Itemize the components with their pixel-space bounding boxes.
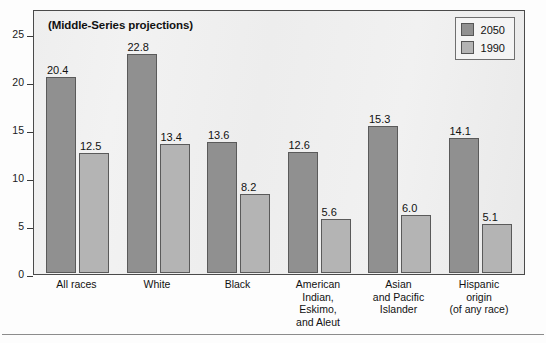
bar-value-1990-3: 8.2 xyxy=(241,181,256,193)
bar-2050-3 xyxy=(207,142,237,273)
bar-value-2050-2: 22.8 xyxy=(128,41,149,53)
y-axis: 0510152025 xyxy=(0,10,33,275)
x-axis-label-line: Hispanic xyxy=(431,278,527,291)
x-axis-labels: All racesWhiteBlackAmericanIndian,Eskimo… xyxy=(33,278,525,340)
bar-value-2050-6: 14.1 xyxy=(450,125,471,137)
y-tick-mark-5 xyxy=(27,228,33,229)
plot-area: (Middle-Series projections) 2050 1990 20… xyxy=(33,10,525,275)
y-tick-mark-15 xyxy=(27,132,33,133)
y-tick-mark-10 xyxy=(27,180,33,181)
bar-1990-2 xyxy=(160,144,190,273)
bar-2050-2 xyxy=(127,54,157,273)
bar-1990-5 xyxy=(401,215,431,273)
x-axis-label-line: and Aleut xyxy=(270,316,366,329)
bottom-divider xyxy=(2,334,544,335)
y-tick-label-10: 10 xyxy=(12,172,24,184)
bar-value-1990-2: 13.4 xyxy=(161,131,182,143)
bar-2050-1 xyxy=(46,77,76,273)
x-axis-label-line: origin xyxy=(431,291,527,304)
bar-value-1990-4: 5.6 xyxy=(322,206,337,218)
bar-2050-4 xyxy=(288,152,318,273)
bar-value-1990-6: 5.1 xyxy=(483,211,498,223)
y-tick-mark-0 xyxy=(27,276,33,277)
y-tick-mark-20 xyxy=(27,84,33,85)
bar-2050-6 xyxy=(449,138,479,273)
y-tick-label-5: 5 xyxy=(18,220,24,232)
bar-value-2050-4: 12.6 xyxy=(289,139,310,151)
bar-value-1990-5: 6.0 xyxy=(402,202,417,214)
bar-2050-5 xyxy=(368,126,398,273)
figure: (Middle-Series projections) 2050 1990 20… xyxy=(0,0,546,343)
y-tick-label-0: 0 xyxy=(18,268,24,280)
y-tick-label-20: 20 xyxy=(12,76,24,88)
y-tick-mark-25 xyxy=(27,36,33,37)
bar-1990-4 xyxy=(321,219,351,273)
y-tick-label-25: 25 xyxy=(12,28,24,40)
y-tick-label-15: 15 xyxy=(12,124,24,136)
bar-1990-1 xyxy=(79,153,109,273)
x-axis-label-line: (of any race) xyxy=(431,303,527,316)
bar-1990-6 xyxy=(482,224,512,273)
bar-value-2050-3: 13.6 xyxy=(208,129,229,141)
bar-value-1990-1: 12.5 xyxy=(80,140,101,152)
bars-container: 20.412.522.813.413.68.212.65.615.36.014.… xyxy=(34,11,524,274)
bar-1990-3 xyxy=(240,194,270,273)
bar-value-2050-1: 20.4 xyxy=(47,64,68,76)
bar-value-2050-5: 15.3 xyxy=(369,113,390,125)
x-axis-label-6: Hispanicorigin(of any race) xyxy=(431,278,527,316)
